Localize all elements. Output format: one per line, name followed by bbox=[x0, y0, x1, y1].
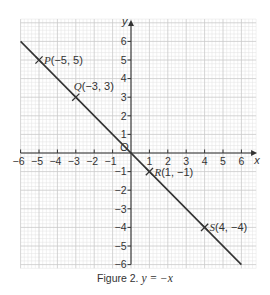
x-tick-label: −4 bbox=[49, 155, 61, 167]
y-tick-label: −4 bbox=[115, 221, 127, 233]
y-tick-label: 6 bbox=[121, 35, 127, 47]
point-label-s: S(4, −4) bbox=[210, 221, 248, 233]
y-axis-label: y bbox=[121, 15, 129, 27]
x-tick-label: 5 bbox=[220, 155, 226, 167]
x-tick-label: 1 bbox=[146, 155, 152, 167]
figure-caption: Figure 2. y = −x bbox=[0, 272, 270, 284]
y-tick-label: −3 bbox=[115, 203, 127, 215]
caption-equation: y = −x bbox=[141, 272, 172, 284]
y-tick-label: 4 bbox=[121, 72, 127, 84]
x-tick-label: −3 bbox=[68, 155, 80, 167]
y-tick-label: −1 bbox=[115, 165, 127, 177]
y-tick-label: 5 bbox=[121, 54, 127, 66]
caption-prefix: Figure 2. bbox=[97, 272, 138, 284]
point-label-r: R(1, −1) bbox=[153, 166, 193, 178]
point-label-q: Q(−3, 3) bbox=[74, 80, 114, 92]
y-tick-label: 1 bbox=[121, 128, 127, 140]
y-tick-label: −5 bbox=[115, 240, 127, 252]
y-tick-label: 3 bbox=[121, 91, 127, 103]
x-tick-label: −6 bbox=[13, 155, 25, 167]
point-label-p: P(−5, 5) bbox=[43, 54, 83, 66]
x-tick-label: 6 bbox=[238, 155, 244, 167]
y-tick-label: −2 bbox=[115, 184, 127, 196]
x-tick-label: 4 bbox=[202, 155, 208, 167]
y-tick-label: 2 bbox=[121, 110, 127, 122]
y-tick-label: −6 bbox=[115, 258, 127, 270]
x-tick-label: −5 bbox=[31, 155, 43, 167]
coordinate-plot: xyO−6−5−4−3−2−1123456654321−1−2−3−4−5−6 … bbox=[0, 0, 270, 295]
x-axis-label: x bbox=[253, 154, 260, 166]
x-tick-label: −2 bbox=[86, 155, 98, 167]
